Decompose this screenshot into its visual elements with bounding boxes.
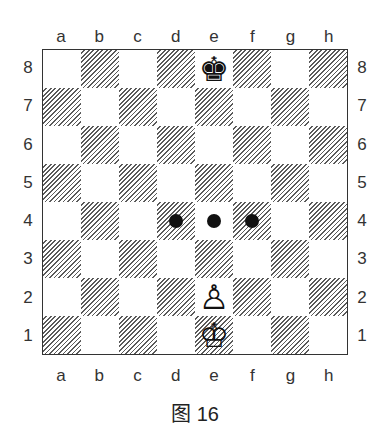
file-label-b: b — [80, 366, 118, 386]
square-f8 — [233, 50, 271, 88]
square-b1 — [81, 316, 119, 354]
square-c5 — [119, 164, 157, 202]
square-b6 — [81, 126, 119, 164]
square-g8 — [271, 50, 309, 88]
file-label-g: g — [272, 366, 310, 386]
square-h3 — [309, 240, 347, 278]
rank-label-4: 4 — [352, 211, 372, 231]
marker-dot-icon — [169, 214, 183, 228]
square-e1: ♔ — [195, 316, 233, 354]
square-e3 — [195, 240, 233, 278]
square-b3 — [81, 240, 119, 278]
rank-label-8: 8 — [352, 58, 372, 78]
square-h6 — [309, 126, 347, 164]
square-h2 — [309, 278, 347, 316]
square-g6 — [271, 126, 309, 164]
square-f5 — [233, 164, 271, 202]
rank-label-6: 6 — [18, 135, 38, 155]
file-label-f: f — [233, 27, 271, 47]
square-c4 — [119, 202, 157, 240]
square-b4 — [81, 202, 119, 240]
square-c1 — [119, 316, 157, 354]
file-label-a: a — [42, 366, 80, 386]
square-a7 — [43, 88, 81, 126]
square-c6 — [119, 126, 157, 164]
square-a1 — [43, 316, 81, 354]
square-f7 — [233, 88, 271, 126]
caption-prefix: 图 — [171, 402, 191, 426]
square-f2 — [233, 278, 271, 316]
file-label-e: e — [195, 27, 233, 47]
rank-label-3: 3 — [352, 249, 372, 269]
square-d8 — [157, 50, 195, 88]
square-f4 — [233, 202, 271, 240]
square-e2: ♙ — [195, 278, 233, 316]
square-e7 — [195, 88, 233, 126]
square-h7 — [309, 88, 347, 126]
rank-label-8: 8 — [18, 58, 38, 78]
square-a3 — [43, 240, 81, 278]
square-d4 — [157, 202, 195, 240]
square-e4 — [195, 202, 233, 240]
square-h5 — [309, 164, 347, 202]
square-a2 — [43, 278, 81, 316]
square-g5 — [271, 164, 309, 202]
file-label-a: a — [42, 27, 80, 47]
square-a5 — [43, 164, 81, 202]
square-g3 — [271, 240, 309, 278]
square-g7 — [271, 88, 309, 126]
square-e6 — [195, 126, 233, 164]
square-b8 — [81, 50, 119, 88]
file-label-c: c — [119, 366, 157, 386]
square-d3 — [157, 240, 195, 278]
square-f1 — [233, 316, 271, 354]
square-e5 — [195, 164, 233, 202]
square-h1 — [309, 316, 347, 354]
rank-label-3: 3 — [18, 249, 38, 269]
file-label-h: h — [310, 366, 348, 386]
rank-label-4: 4 — [18, 211, 38, 231]
square-d6 — [157, 126, 195, 164]
rank-label-2: 2 — [352, 288, 372, 308]
file-label-d: d — [157, 366, 195, 386]
file-label-c: c — [119, 27, 157, 47]
square-d7 — [157, 88, 195, 126]
square-f3 — [233, 240, 271, 278]
square-a4 — [43, 202, 81, 240]
marker-dot-icon — [207, 214, 221, 228]
square-a6 — [43, 126, 81, 164]
caption-number: 16 — [197, 403, 219, 425]
rank-label-1: 1 — [18, 326, 38, 346]
square-g2 — [271, 278, 309, 316]
square-h4 — [309, 202, 347, 240]
white-pawn-icon: ♙ — [199, 280, 229, 314]
square-e8: ♚ — [195, 50, 233, 88]
file-label-d: d — [157, 27, 195, 47]
rank-label-5: 5 — [352, 173, 372, 193]
square-a8 — [43, 50, 81, 88]
square-b5 — [81, 164, 119, 202]
rank-label-7: 7 — [352, 96, 372, 116]
rank-label-2: 2 — [18, 288, 38, 308]
file-label-e: e — [195, 366, 233, 386]
square-d5 — [157, 164, 195, 202]
square-g1 — [271, 316, 309, 354]
white-king-icon: ♔ — [199, 318, 229, 352]
marker-dot-icon — [245, 214, 259, 228]
square-f6 — [233, 126, 271, 164]
square-d2 — [157, 278, 195, 316]
square-c8 — [119, 50, 157, 88]
file-label-b: b — [80, 27, 118, 47]
square-c3 — [119, 240, 157, 278]
square-g4 — [271, 202, 309, 240]
file-label-f: f — [233, 366, 271, 386]
square-d1 — [157, 316, 195, 354]
rank-label-7: 7 — [18, 96, 38, 116]
square-b2 — [81, 278, 119, 316]
square-c7 — [119, 88, 157, 126]
file-label-g: g — [272, 27, 310, 47]
rank-label-5: 5 — [18, 173, 38, 193]
square-b7 — [81, 88, 119, 126]
file-label-h: h — [310, 27, 348, 47]
chess-board: ♚♙♔ — [42, 49, 348, 355]
